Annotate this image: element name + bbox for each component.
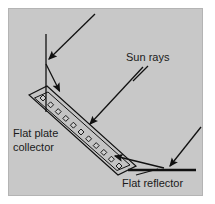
figure-root: Sun rays Flat plate collector Flat refle… [0,0,215,204]
label-flat-reflector: Flat reflector [122,177,183,189]
diagram-canvas: Sun rays Flat plate collector Flat refle… [0,0,215,204]
label-flat-plate-collector-line2: collector [13,141,54,153]
label-flat-plate-collector-line1: Flat plate [13,127,58,139]
label-sun-rays: Sun rays [126,51,170,63]
